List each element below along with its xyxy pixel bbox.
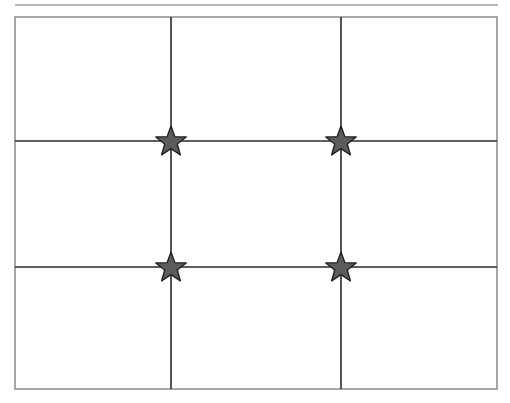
frame-border: [15, 17, 497, 389]
rule-of-thirds-diagram: [0, 0, 510, 403]
